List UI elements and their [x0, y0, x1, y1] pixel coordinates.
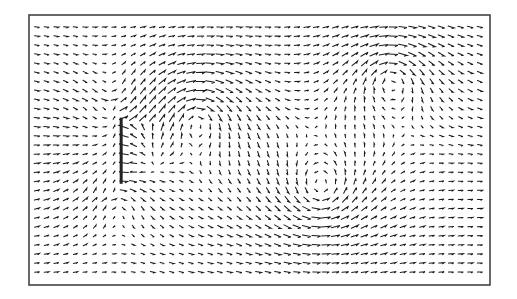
vector-arrow [343, 61, 348, 65]
vector-arrow [361, 26, 368, 28]
vector-arrow [364, 143, 365, 147]
vector-arrow [74, 244, 78, 246]
vector-arrow [247, 188, 250, 192]
vector-arrow [400, 253, 406, 254]
vector-arrow [351, 35, 358, 37]
vector-arrow [198, 27, 204, 28]
vector-arrow [342, 263, 349, 264]
vector-arrow [64, 253, 68, 254]
vector-arrow [196, 72, 205, 74]
vector-arrow [335, 107, 337, 111]
vector-arrow [227, 262, 232, 264]
vector-arrow [190, 171, 193, 173]
vector-arrow [199, 189, 202, 192]
vector-arrow [196, 81, 205, 83]
vector-arrow [324, 71, 329, 74]
vector-arrow [411, 180, 415, 182]
vector-arrow [326, 125, 327, 128]
vector-arrow [64, 45, 69, 46]
vector-arrow [352, 197, 357, 202]
vector-arrow [324, 162, 327, 164]
vector-arrow [294, 272, 301, 274]
vector-arrow [181, 153, 183, 156]
vector-arrow [411, 154, 414, 155]
vector-arrow [477, 236, 482, 237]
vector-arrow [103, 244, 106, 245]
vector-arrow [305, 118, 308, 119]
vector-arrow [381, 253, 387, 255]
vector-arrow [217, 106, 223, 112]
vector-arrow [122, 79, 125, 83]
vector-arrow [373, 107, 375, 111]
vector-arrow [227, 244, 232, 246]
vector-arrow [150, 61, 155, 65]
vector-arrow [168, 79, 176, 84]
vector-arrow [93, 162, 97, 164]
vector-arrow [54, 263, 59, 264]
vector-arrow [112, 54, 116, 55]
vector-arrow [64, 180, 69, 182]
vector-arrow [187, 63, 195, 65]
vector-arrow [226, 63, 233, 65]
vector-arrow [44, 81, 49, 83]
vector-arrow [63, 117, 68, 119]
vector-arrow [420, 199, 425, 200]
vector-arrow [102, 99, 108, 101]
vector-arrow [141, 124, 144, 130]
vector-arrow [159, 26, 165, 27]
vector-arrow [73, 272, 77, 273]
vector-arrow [216, 63, 224, 65]
vector-arrow [141, 272, 145, 273]
vector-arrow [35, 244, 40, 245]
vector-arrow [35, 263, 40, 264]
vector-arrow [374, 152, 375, 156]
vector-arrow [468, 108, 473, 110]
vector-arrow [322, 208, 330, 210]
vector-arrow [419, 26, 426, 28]
vector-arrow [419, 44, 426, 47]
vector-arrow [468, 26, 474, 28]
vector-arrow [420, 226, 425, 227]
vector-arrow [468, 181, 473, 182]
vector-arrow [179, 272, 184, 273]
vector-arrow [132, 207, 135, 211]
vector-arrow [199, 117, 203, 119]
vector-arrow [344, 88, 346, 93]
vector-arrow [93, 244, 96, 246]
vector-arrow [161, 123, 164, 130]
vector-arrow [256, 253, 262, 255]
vector-arrow [187, 81, 196, 83]
vector-arrow [306, 179, 307, 184]
vector-arrow [54, 72, 59, 74]
vector-arrow [322, 254, 330, 255]
vector-arrow [333, 53, 339, 56]
vector-arrow [190, 134, 192, 137]
vector-arrow [44, 108, 50, 110]
vector-arrow [189, 244, 193, 246]
vector-arrow [238, 170, 240, 175]
vector-arrow [208, 272, 213, 273]
vector-arrow [468, 145, 473, 146]
vector-arrow [160, 253, 164, 255]
vector-arrow [131, 62, 135, 65]
vector-arrow [420, 70, 425, 75]
vector-arrow [64, 244, 68, 246]
vector-arrow [429, 61, 435, 65]
vector-arrow [113, 235, 116, 236]
vector-arrow [112, 90, 116, 92]
vector-arrow [458, 272, 463, 273]
vector-arrow [374, 125, 375, 129]
vector-arrow [54, 171, 60, 173]
vector-arrow [93, 171, 97, 174]
vector-arrow [159, 87, 166, 93]
vector-arrow [209, 189, 212, 192]
vector-arrow [44, 272, 49, 273]
vector-arrow [412, 107, 413, 111]
vector-arrow [216, 89, 224, 93]
vector-arrow [257, 170, 259, 175]
vector-arrow [449, 254, 454, 255]
vector-arrow [207, 45, 214, 46]
vector-arrow [93, 72, 97, 74]
vector-arrow [44, 54, 49, 55]
vector-arrow [458, 181, 463, 182]
